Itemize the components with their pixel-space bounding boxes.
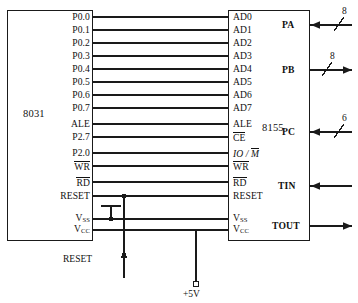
pin-label-ad7: AD7 — [233, 103, 252, 113]
port-label-tout: TOUT — [272, 221, 300, 231]
junction-reset — [122, 194, 127, 199]
pin-label-reset-right: RESET — [233, 191, 263, 201]
pin-label-ad1: AD1 — [233, 25, 252, 35]
reset-arrowhead — [121, 250, 128, 258]
chip-8155-label: 8155 — [262, 122, 284, 133]
pin-label-ad4: AD4 — [233, 64, 252, 74]
bus-width-pb: 8 — [330, 51, 335, 61]
pin-label-p02: P0.2 — [30, 38, 90, 48]
pin-label-wr-right: WR — [233, 161, 249, 172]
pin-label-p04: P0.4 — [30, 64, 90, 74]
pin-label-vcc-right: VCC — [233, 224, 249, 236]
port-label-pb: PB — [282, 65, 295, 75]
io-m-text: IO / M — [233, 148, 259, 159]
pin-label-ad0: AD0 — [233, 12, 252, 22]
port-label-pa: PA — [282, 20, 294, 30]
bus-width-pc: 6 — [342, 113, 347, 123]
bus-slash-pc — [334, 124, 344, 138]
bus-slash-pa — [334, 17, 344, 31]
pin-label-ale-right: ALE — [233, 119, 252, 129]
pin-label-rd-left: RD — [30, 177, 90, 188]
pin-label-reset-left: RESET — [22, 191, 90, 201]
io-m-overline: M — [251, 148, 259, 159]
pin-label-vcc-left: VCC — [30, 224, 90, 236]
pin-label-p00: P0.0 — [30, 12, 90, 22]
pin-label-p06: P0.6 — [30, 90, 90, 100]
pin-label-ad3: AD3 — [233, 51, 252, 61]
bus-width-pa: 8 — [342, 6, 347, 16]
supply-terminal — [193, 281, 199, 287]
pin-label-ad5: AD5 — [233, 77, 252, 87]
pin-label-wr-left: WR — [30, 161, 90, 172]
pin-label-ad2: AD2 — [233, 38, 252, 48]
port-label-tin: TIN — [278, 181, 296, 191]
pc-arrowhead — [311, 128, 320, 136]
pin-label-io-m: IO / M — [233, 148, 259, 159]
net-label-reset: RESET — [63, 254, 92, 264]
pin-label-ad6: AD6 — [233, 90, 252, 100]
pb-arrowhead — [343, 66, 352, 74]
pin-label-p27: P2.7 — [30, 132, 90, 142]
tout-arrowhead — [343, 222, 352, 230]
pin-label-ale-left: ALE — [30, 119, 90, 129]
pin-label-rd-right: RD — [233, 177, 247, 188]
pin-label-p01: P0.1 — [30, 25, 90, 35]
tin-arrowhead — [311, 182, 320, 190]
pin-label-p20: P2.0 — [30, 148, 90, 158]
pin-label-p07: P0.7 — [30, 103, 90, 113]
pin-label-ce: CE — [233, 132, 245, 143]
pin-label-p03: P0.3 — [30, 51, 90, 61]
pa-arrowhead — [311, 21, 320, 29]
bus-slash-pb — [322, 62, 332, 76]
port-label-pc: PC — [282, 127, 295, 137]
net-label-supply: +5V — [183, 289, 200, 299]
junction-ground — [109, 217, 114, 222]
pin-label-p05: P0.5 — [30, 77, 90, 87]
